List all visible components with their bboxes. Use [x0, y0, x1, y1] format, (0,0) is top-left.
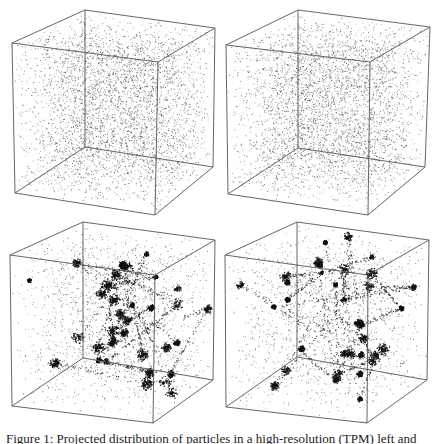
panel-bottom-right: [225, 222, 429, 423]
panel-bottom-left: [10, 222, 215, 423]
panel-top-left: [12, 10, 215, 215]
figure-canvas: [0, 0, 440, 430]
panel-top-right: [226, 10, 430, 215]
figure-caption: Figure 1: Projected distribution of part…: [6, 431, 440, 444]
